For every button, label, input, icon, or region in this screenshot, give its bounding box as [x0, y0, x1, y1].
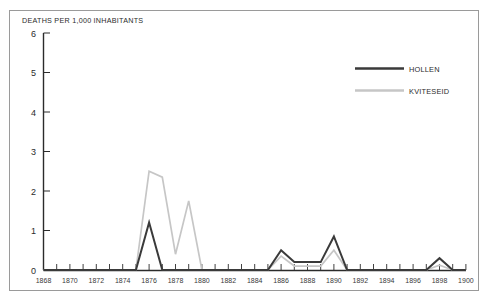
x-tick-label: 1900	[458, 277, 474, 284]
y-tick-label: 4	[31, 108, 36, 118]
y-tick-label: 1	[31, 226, 36, 236]
x-tick-label: 1868	[36, 277, 52, 284]
chart-figure: DEATHS PER 1,000 INHABITANTS 6 5 4 3 2 1…	[0, 0, 488, 301]
y-axis-tick-labels: 6 5 4 3 2 1 0	[31, 29, 36, 276]
x-tick-label: 1898	[432, 277, 448, 284]
x-tick-label: 1870	[62, 277, 78, 284]
x-tick-label: 1872	[89, 277, 105, 284]
x-tick-label: 1888	[300, 277, 316, 284]
x-tick-label: 1890	[326, 277, 342, 284]
legend-label-kviteseid: KVITESEID	[409, 87, 449, 96]
x-tick-label: 1894	[379, 277, 395, 284]
x-tick-label: 1878	[168, 277, 184, 284]
x-tick-label: 1876	[141, 277, 157, 284]
x-tick-label: 1884	[247, 277, 263, 284]
y-tick-label: 5	[31, 68, 36, 78]
series-line-hollen	[44, 223, 466, 270]
x-tick-label: 1880	[194, 277, 210, 284]
x-tick-label: 1892	[353, 277, 369, 284]
x-tick-label: 1874	[115, 277, 131, 284]
series-line-kviteseid	[44, 171, 466, 270]
x-tick-label: 1886	[273, 277, 289, 284]
chart-legend: HOLLEN KVITESEID	[355, 65, 449, 96]
y-tick-label: 0	[31, 266, 36, 276]
x-tick-label: 1882	[221, 277, 237, 284]
chart-plot-area: 6 5 4 3 2 1 0	[0, 0, 488, 301]
data-series-layer	[44, 171, 466, 270]
y-tick-label: 2	[31, 187, 36, 197]
x-tick-label: 1896	[405, 277, 421, 284]
y-axis-ticks	[44, 33, 51, 270]
legend-label-hollen: HOLLEN	[409, 65, 440, 74]
y-tick-label: 6	[31, 29, 36, 39]
x-axis-tick-labels: 1868 1870 1872 1874 1876 1878 1880 1882 …	[36, 277, 474, 284]
y-tick-label: 3	[31, 147, 36, 157]
